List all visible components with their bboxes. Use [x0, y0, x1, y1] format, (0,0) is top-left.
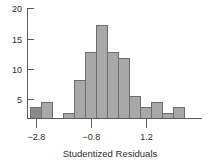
bars-group — [31, 25, 185, 119]
bar-8 — [119, 58, 130, 119]
plot-area: 20 15 10 5 −2.8 −0. — [0, 0, 211, 162]
bar-3 — [64, 113, 75, 119]
bar-7 — [108, 53, 119, 119]
y-axis-ticks — [28, 9, 34, 100]
bar-1 — [42, 102, 53, 119]
bar-12 — [163, 113, 174, 119]
bar-13 — [174, 108, 185, 119]
y-tick-label-5: 5 — [17, 95, 22, 105]
bar-4 — [75, 80, 86, 119]
bar-11 — [152, 102, 163, 119]
x-tick-label-1-2: 1.2 — [140, 132, 153, 142]
bar-10 — [141, 108, 152, 119]
y-tick-label-15: 15 — [12, 35, 22, 45]
x-axis-title: Studentized Residuals — [63, 148, 158, 159]
bar-5 — [86, 53, 97, 119]
bar-0 — [31, 108, 42, 119]
bar-9 — [130, 97, 141, 119]
bar-6 — [97, 25, 108, 119]
x-tick-label-neg0-8: −0.8 — [83, 132, 101, 142]
histogram-chart: 20 15 10 5 −2.8 −0. — [0, 0, 211, 162]
x-tick-label-neg2-8: −2.8 — [28, 132, 46, 142]
y-tick-label-20: 20 — [12, 4, 22, 14]
y-tick-label-10: 10 — [12, 65, 22, 75]
x-axis-ticks — [37, 119, 147, 128]
